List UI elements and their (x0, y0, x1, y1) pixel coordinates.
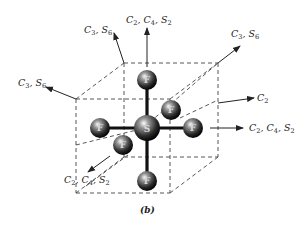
label-axis-upper-right: C3, S6 (231, 29, 259, 41)
label-axis-right: C2, C4, S2 (249, 123, 295, 135)
label-axis-left: C3, S6 (18, 78, 46, 90)
svg-text:F: F (97, 123, 104, 133)
atom-f-bottom: F (137, 171, 157, 191)
axis-left (46, 87, 76, 99)
svg-text:F: F (168, 105, 175, 115)
symmetry-axes (46, 28, 254, 172)
axis-right-c2 (218, 98, 254, 103)
axis-upper-right (218, 46, 240, 63)
atom-f-front: F (113, 135, 133, 155)
svg-text:F: F (144, 75, 151, 85)
label-axis-right-c2: C2 (257, 93, 268, 105)
svg-text:F: F (190, 123, 197, 133)
atom-s-center: S (134, 115, 160, 141)
label-axis-top: C2, C4, S2 (126, 15, 172, 27)
svg-text:F: F (120, 140, 127, 150)
label-axis-lower-left: C2, C4, S2 (64, 175, 110, 187)
svg-text:F: F (144, 176, 151, 186)
label-axis-upper-left: C3, S6 (84, 25, 112, 37)
atom-f-top: F (137, 70, 157, 90)
atom-f-back: F (161, 100, 181, 120)
atom-f-left: F (90, 118, 110, 138)
figure-caption: (b) (140, 205, 155, 215)
atom-f-right: F (183, 118, 203, 138)
axis-upper-left (114, 33, 124, 63)
svg-text:S: S (144, 124, 151, 134)
